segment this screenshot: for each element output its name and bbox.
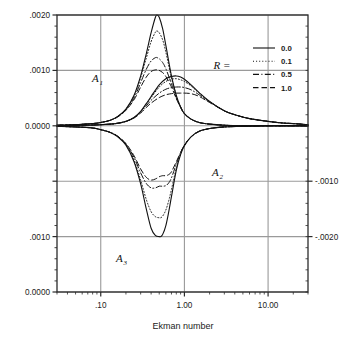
ekman-number-amplitude-chart: .0020.00100.0000.00100.0000-.0010-.0020.… — [0, 0, 359, 338]
tick-label-left: 0.0000 — [25, 122, 50, 131]
tick-label-x: 10.00 — [258, 301, 279, 310]
annotation-text: A — [91, 72, 99, 84]
x-axis-title: Ekman number — [152, 321, 213, 331]
annotation-text: A — [115, 252, 123, 264]
figure-background — [0, 0, 359, 338]
tick-label-left: 0.0000 — [25, 288, 50, 297]
legend-title: R = — [213, 59, 231, 71]
tick-label-left: .0020 — [30, 11, 51, 20]
legend-label: 0.0 — [281, 44, 293, 53]
annotation-subscript: 1 — [100, 79, 104, 87]
tick-label-left: .0010 — [30, 66, 51, 75]
annotation-subscript: 3 — [123, 259, 128, 267]
legend-label: 1.0 — [281, 84, 293, 93]
tick-label-x: 1.00 — [176, 301, 192, 310]
legend-label: 0.1 — [281, 57, 293, 66]
annotation-subscript: 2 — [220, 173, 224, 181]
tick-label-right: -.0020 — [315, 233, 339, 242]
tick-label-left: .0010 — [30, 233, 51, 242]
annotation-text: A — [211, 166, 219, 178]
legend-label: 0.5 — [281, 70, 293, 79]
tick-label-x: .10 — [95, 301, 107, 310]
tick-label-right: -.0010 — [315, 177, 339, 186]
